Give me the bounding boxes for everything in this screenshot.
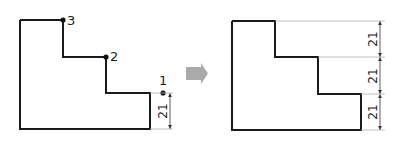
point-2-marker [103,54,108,59]
right-figure: 21 21 21 [232,21,385,130]
diagram-canvas: 3 2 1 21 21 21 21 [0,0,401,142]
point-2-label: 2 [110,49,118,64]
left-figure: 3 2 1 21 [20,13,173,129]
dimension-label-middle: 21 [366,68,380,83]
point-3-marker [60,17,65,22]
transform-arrow-icon [186,63,208,84]
point-3-label: 3 [67,13,75,28]
right-staircase-outline [232,21,361,130]
dimension-label-bottom: 21 [366,104,380,119]
dimension-label: 21 [156,103,170,118]
dimension-label-top: 21 [366,31,380,46]
left-staircase-outline [20,20,150,129]
point-1-label: 1 [159,73,167,88]
